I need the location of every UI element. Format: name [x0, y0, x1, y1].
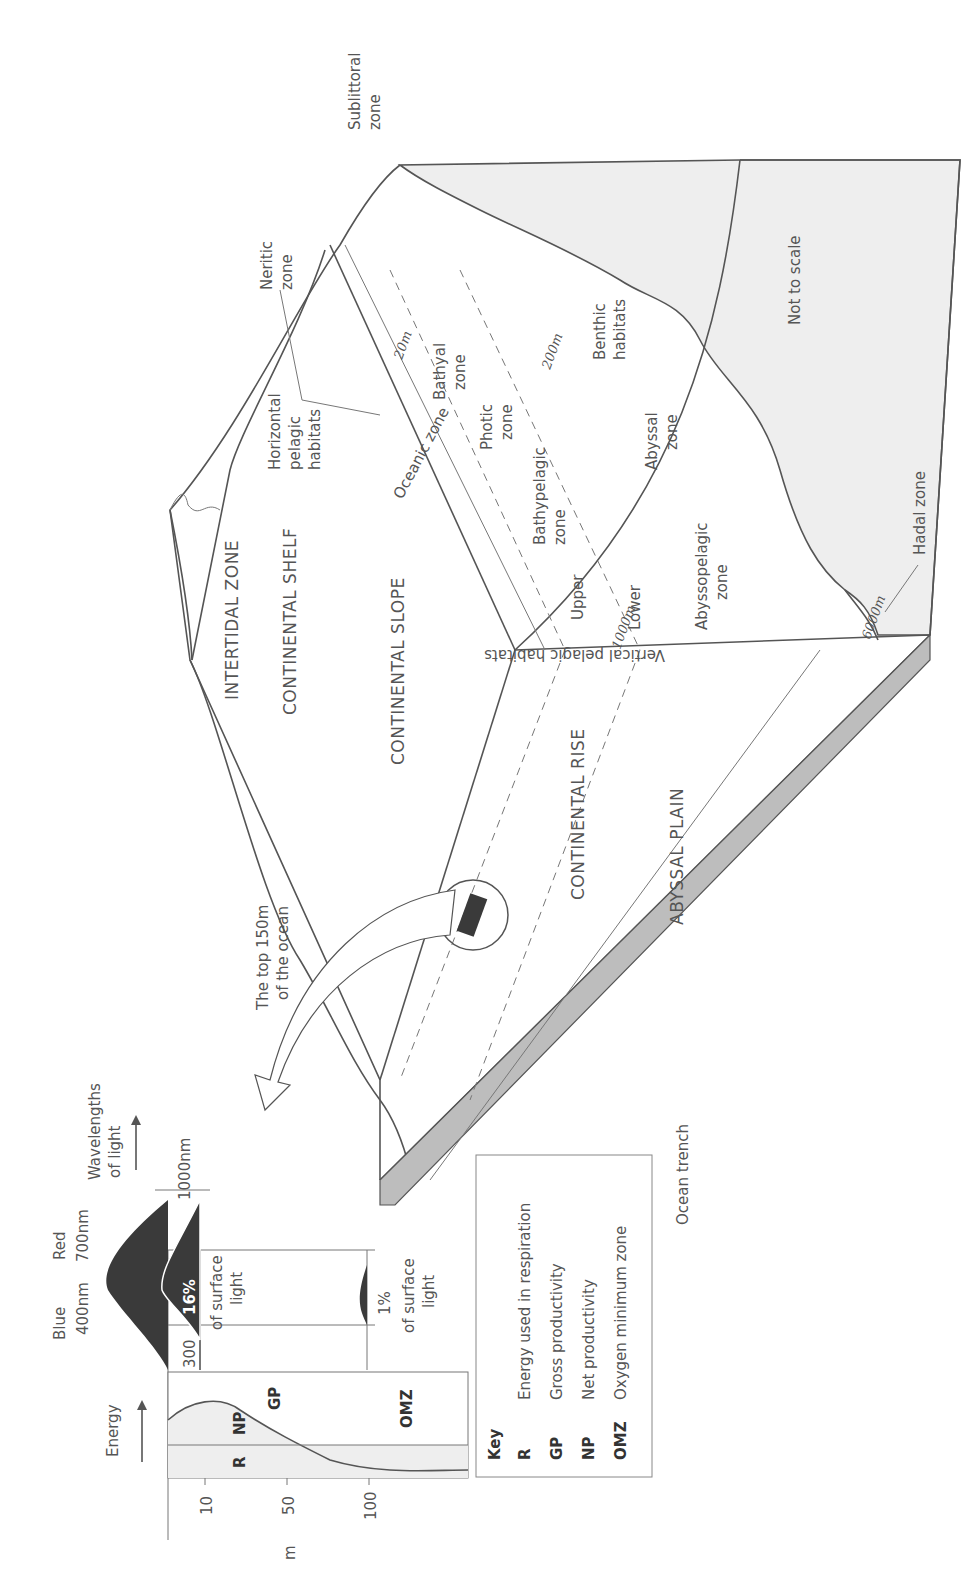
label-horizontal-2: pelagic: [286, 416, 304, 470]
key-text-GP: Gross productivity: [548, 1263, 566, 1400]
key-legend: Key R Energy used in respiration GP Gros…: [476, 1155, 652, 1477]
key-text-R: Energy used in respiration: [516, 1203, 534, 1400]
label-photic: Photic: [478, 404, 496, 450]
label-NP: NP: [231, 1411, 249, 1435]
label-bathypelagic-2: zone: [551, 509, 569, 545]
label-slope: CONTINENTAL SLOPE: [388, 577, 408, 765]
label-400nm: 400nm: [74, 1282, 92, 1335]
label-intertidal: INTERTIDAL ZONE: [222, 540, 242, 700]
label-R: R: [231, 1456, 249, 1468]
benthic-seafloor: [400, 160, 960, 635]
label-neritic-2: zone: [278, 254, 296, 290]
energy-depth-inset: Energy R NP GP OMZ 10 50 100 m: [104, 1372, 468, 1560]
label-red: Red: [51, 1232, 69, 1261]
key-abbr-GP: GP: [548, 1437, 566, 1460]
key-abbr-R: R: [516, 1448, 534, 1460]
label-abyssal-2: zone: [663, 414, 681, 450]
label-benthic: Benthic: [591, 303, 609, 360]
label-benthic-2: habitats: [611, 299, 629, 360]
label-ocean-trench: Ocean trench: [674, 1124, 692, 1225]
top-150m-sample: [457, 893, 488, 937]
label-1pct-sub1: of surface: [400, 1258, 418, 1333]
label-1000nm: 1000nm: [176, 1138, 194, 1200]
label-700nm: 700nm: [74, 1209, 92, 1262]
tick-10: 10: [198, 1496, 216, 1515]
label-16pct: 16%: [181, 1279, 199, 1315]
label-upper: Upper: [569, 574, 587, 620]
key-text-NP: Net productivity: [580, 1279, 598, 1400]
label-16pct-sub1: of surface: [208, 1255, 226, 1330]
label-GP: GP: [266, 1387, 284, 1410]
label-sublittoral-2: zone: [366, 94, 384, 130]
block-diagram: INTERTIDAL ZONE CONTINENTAL SHELF CONTIN…: [170, 53, 960, 1225]
key-title: Key: [486, 1428, 504, 1460]
key-abbr-NP: NP: [580, 1436, 598, 1460]
spectrum-1pct: [360, 1265, 367, 1325]
depth-unit: m: [281, 1545, 299, 1560]
label-blue: Blue: [51, 1307, 69, 1340]
not-to-scale-note: Not to scale: [786, 235, 804, 325]
label-16pct-sub2: light: [228, 1272, 246, 1305]
label-abyssopelagic: Abyssopelagic: [693, 522, 711, 630]
key-text-OMZ: Oxygen minimum zone: [612, 1226, 630, 1400]
surface-spectrum: [106, 1200, 168, 1370]
ocean-zones-diagram: INTERTIDAL ZONE CONTINENTAL SHELF CONTIN…: [0, 0, 980, 1591]
label-abyssal: Abyssal: [643, 412, 661, 470]
label-shelf: CONTINENTAL SHELF: [280, 528, 300, 715]
label-top150: The top 150m: [254, 905, 272, 1011]
label-bathyal: Bathyal: [431, 343, 449, 400]
label-abyssopelagic-2: zone: [713, 564, 731, 600]
label-plain: ABYSSAL PLAIN: [667, 788, 687, 925]
label-top150-2: of the ocean: [274, 906, 292, 1000]
label-300: 300: [181, 1339, 199, 1368]
depth-200m: 200m: [538, 331, 565, 372]
label-of-light: of light: [106, 1125, 124, 1178]
label-OMZ: OMZ: [398, 1389, 416, 1428]
label-energy: Energy: [104, 1404, 122, 1457]
label-photic-2: zone: [498, 404, 516, 440]
label-1pct-sub2: light: [420, 1275, 438, 1308]
label-wavelengths: Wavelengths: [86, 1083, 104, 1180]
label-hadal: Hadal zone: [911, 471, 929, 555]
label-oceanic: Oceanic zone: [390, 404, 453, 502]
label-horizontal-3: habitats: [306, 409, 324, 470]
label-bathypelagic: Bathypelagic: [531, 447, 549, 545]
depth-20m: 20m: [390, 329, 414, 362]
label-neritic: Neritic: [258, 241, 276, 290]
label-sublittoral: Sublittoral: [346, 53, 364, 130]
key-abbr-OMZ: OMZ: [612, 1421, 630, 1460]
tick-100: 100: [362, 1491, 380, 1520]
label-horizontal: Horizontal: [266, 393, 284, 470]
label-1pct: 1%: [376, 1291, 394, 1315]
label-bathyal-2: zone: [451, 354, 469, 390]
tick-50: 50: [280, 1496, 298, 1515]
label-rise: CONTINENTAL RISE: [568, 729, 588, 900]
label-vertical-pelagic: Vertical pelagic habitats: [484, 646, 665, 664]
